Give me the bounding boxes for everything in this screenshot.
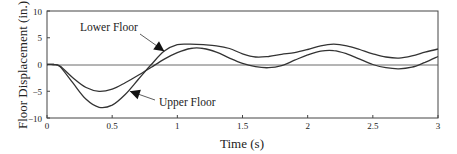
- y-tick-label: −10: [28, 114, 43, 124]
- lower-floor-label: Lower Floor: [80, 21, 138, 33]
- y-tick-label: 10: [33, 7, 43, 17]
- series-upper-floor: [47, 44, 438, 108]
- x-tick-label: 2: [305, 121, 310, 131]
- x-tick-label: 0.5: [107, 121, 119, 131]
- y-tick-label: 5: [38, 33, 43, 43]
- x-tick-label: 1: [175, 121, 180, 131]
- x-axis-title: Time (s): [220, 136, 264, 151]
- arrowhead-icon: [130, 90, 141, 99]
- y-tick-label: 0: [38, 60, 43, 70]
- line-chart: Floor Displacement (in.) Time (s) 1050−5…: [0, 0, 457, 154]
- x-axis-ticks: 00.511.522.53: [45, 115, 441, 131]
- x-tick-label: 2.5: [367, 121, 379, 131]
- y-axis-label: Floor Displacement (in.): [15, 1, 30, 129]
- upper-floor-label: Upper Floor: [159, 96, 216, 109]
- x-tick-label: 1.5: [237, 121, 249, 131]
- x-tick-label: 3: [436, 121, 441, 131]
- y-axis-title: Floor Displacement (in.): [15, 1, 30, 129]
- arrowhead-icon: [153, 41, 164, 51]
- y-tick-label: −5: [32, 87, 42, 97]
- x-tick-label: 0: [45, 121, 50, 131]
